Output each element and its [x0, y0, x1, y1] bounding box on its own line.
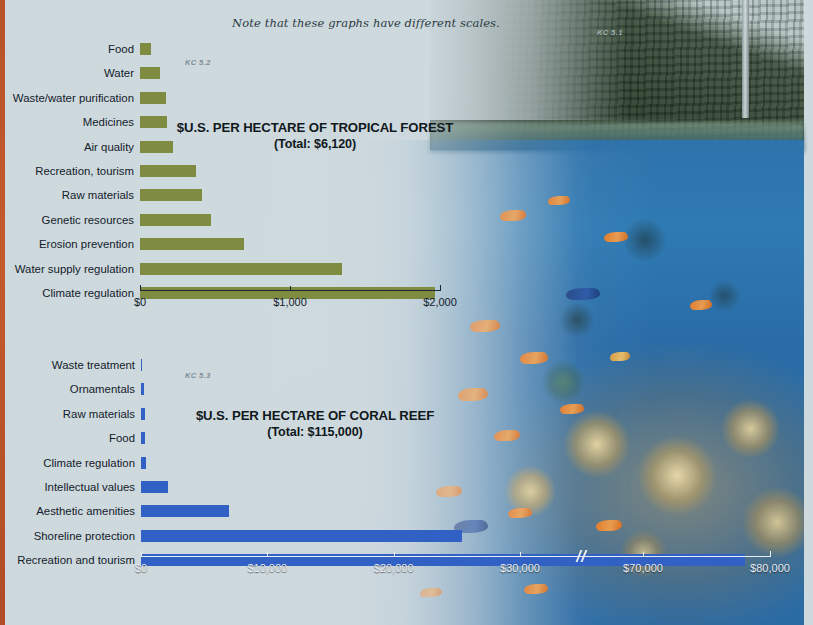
axis-tick-label: $80,000	[725, 562, 813, 574]
axis-tick	[290, 286, 291, 291]
chart-total-text: (Total: $6,120)	[274, 137, 356, 151]
bar-row: Shoreline protection	[0, 529, 140, 543]
bar-label: Food	[0, 42, 134, 56]
bar-label: Water	[0, 66, 134, 80]
chart-title-text: $U.S. PER HECTARE OF CORAL REEF	[196, 408, 434, 423]
axis-break-marker	[577, 550, 587, 562]
scale-note: Note that these graphs have different sc…	[196, 16, 536, 30]
page-edge-strip	[0, 0, 5, 625]
axis-tick-label: $20,000	[349, 562, 439, 574]
bar	[140, 165, 196, 177]
bar-row: Waste/water purification	[0, 91, 140, 105]
bar	[141, 408, 145, 420]
bar-label: Food	[0, 431, 135, 445]
bar-label: Ornamentals	[0, 382, 135, 396]
bar-label: Raw materials	[0, 188, 134, 202]
axis-tick-label: $0	[96, 562, 186, 574]
axis-tick-label: $10,000	[222, 562, 312, 574]
bar	[140, 92, 166, 104]
axis-tick	[267, 552, 268, 557]
bar	[140, 238, 244, 250]
axis-tick-label: $0	[95, 296, 185, 308]
bar-row: Genetic resources	[0, 213, 140, 227]
chart-tropical-forest: $U.S. PER HECTARE OF TROPICAL FOREST (To…	[0, 42, 470, 312]
bar-row: Raw materials	[0, 407, 140, 421]
bar-label: Erosion prevention	[0, 237, 134, 251]
axis-tick-label: $2,000	[395, 296, 485, 308]
chart-title-text: $U.S. PER HECTARE OF TROPICAL FOREST	[177, 120, 454, 135]
bar-row: Raw materials	[0, 188, 140, 202]
axis-tick	[643, 552, 644, 557]
chart-title-tropical-forest: $U.S. PER HECTARE OF TROPICAL FOREST (To…	[160, 120, 470, 152]
bar-row: Waste treatment	[0, 358, 140, 372]
axis-tick-label: $70,000	[598, 562, 688, 574]
bar-row: Water	[0, 66, 140, 80]
bar-label: Waste/water purification	[0, 91, 134, 105]
bar-row: Intellectual values	[0, 480, 140, 494]
axis-tick	[394, 552, 395, 557]
axis-tick-label: $1,000	[245, 296, 335, 308]
axis-end-cap	[141, 551, 142, 557]
figure-tag-kc-5-1: KC 5.1	[597, 28, 623, 37]
bar	[141, 383, 144, 395]
chart-title-coral-reef: $U.S. PER HECTARE OF CORAL REEF (Total: …	[160, 408, 470, 440]
bar	[141, 530, 462, 542]
bar	[140, 67, 160, 79]
bar-row: Medicines	[0, 115, 140, 129]
chart-total-text: (Total: $115,000)	[267, 425, 362, 439]
bar-row: Aesthetic amenities	[0, 504, 140, 518]
bar	[141, 481, 168, 493]
bar-label: Recreation, tourism	[0, 164, 134, 178]
bar-label: Air quality	[0, 140, 134, 154]
bar-label: Shoreline protection	[0, 529, 135, 543]
chart-coral-reef: $U.S. PER HECTARE OF CORAL REEF (Total: …	[0, 358, 804, 598]
bar-label: Raw materials	[0, 407, 135, 421]
bar-label: Aesthetic amenities	[0, 504, 135, 518]
bar-row: Ornamentals	[0, 382, 140, 396]
bar	[140, 43, 151, 55]
axis-end-cap	[440, 285, 441, 291]
bar	[141, 359, 142, 371]
bar	[140, 214, 211, 226]
bar-label: Genetic resources	[0, 213, 134, 227]
bar	[141, 432, 145, 444]
bar-row: Water supply regulation	[0, 262, 140, 276]
bar-row: Climate regulation	[0, 456, 140, 470]
bar-label: Waste treatment	[0, 358, 135, 372]
axis-tick	[520, 552, 521, 557]
bar-row: Erosion prevention	[0, 237, 140, 251]
bar-label: Water supply regulation	[0, 262, 134, 276]
axis-line	[141, 556, 770, 557]
bar	[140, 189, 202, 201]
bar	[140, 141, 173, 153]
bar	[141, 505, 229, 517]
bar-label: Medicines	[0, 115, 134, 129]
axis-end-cap	[140, 285, 141, 291]
axis-tick-label: $30,000	[475, 562, 565, 574]
bar-label: Climate regulation	[0, 456, 135, 470]
axis-end-cap	[770, 551, 771, 557]
bar	[140, 263, 342, 275]
bar-row: Air quality	[0, 140, 140, 154]
bar	[141, 457, 146, 469]
bar-row: Recreation, tourism	[0, 164, 140, 178]
bar-row: Food	[0, 431, 140, 445]
bar-label: Intellectual values	[0, 480, 135, 494]
bar	[140, 116, 167, 128]
bar-row: Food	[0, 42, 140, 56]
